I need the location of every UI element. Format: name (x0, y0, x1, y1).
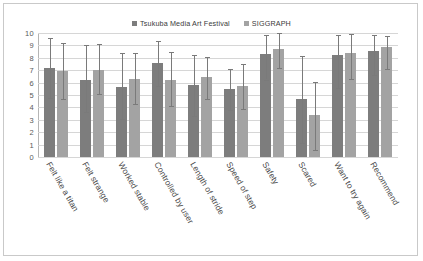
x-axis-category-label: Safety (260, 160, 281, 186)
y-axis-tick-label: 0 (4, 153, 34, 162)
bar-group (110, 33, 146, 157)
error-bar (351, 34, 352, 79)
y-axis-tick-label: 3 (4, 115, 34, 124)
error-bar-cap (61, 43, 66, 44)
bar-group (74, 33, 110, 157)
x-axis-category-label: Scared (296, 160, 318, 189)
error-bar (86, 45, 87, 112)
error-bar (266, 35, 267, 80)
error-bar (338, 35, 339, 88)
error-bar-cap (205, 99, 210, 100)
chart-figure: Tsukuba Media Art Festival SIGGRAPH 1098… (0, 0, 423, 261)
y-axis-tick-label: 6 (4, 78, 34, 87)
error-bar-cap (61, 99, 66, 100)
error-bar-cap (169, 106, 174, 107)
error-bar-cap (349, 79, 354, 80)
error-bar-cap (277, 68, 282, 69)
error-bar (50, 38, 51, 98)
error-bar (279, 33, 280, 68)
error-bar-cap (169, 52, 174, 53)
error-bar-cap (300, 56, 305, 57)
error-bar-cap (228, 110, 233, 111)
error-bar-cap (120, 53, 125, 54)
error-bar (207, 57, 208, 99)
x-axis-category-labels: Felt like a titanFelt strangeWorked stab… (38, 158, 398, 258)
y-axis-tick-label: 8 (4, 53, 34, 62)
error-bar-cap (277, 33, 282, 34)
x-axis-category-label: Speed of step (224, 160, 259, 211)
y-axis-tick-label: 2 (4, 128, 34, 137)
error-bar-cap (48, 98, 53, 99)
error-bar-cap (313, 150, 318, 151)
error-bar (243, 64, 244, 109)
error-bar-cap (84, 45, 89, 46)
x-axis-category-label: Want to try again (332, 160, 373, 221)
y-axis-tick-label: 1 (4, 140, 34, 149)
bar-group (254, 33, 290, 157)
error-bar-cap (241, 64, 246, 65)
error-bar-cap (205, 57, 210, 58)
error-bar-cap (264, 80, 269, 81)
error-bar (99, 44, 100, 94)
bar-group (218, 33, 254, 157)
bar-group (290, 33, 326, 157)
plot-area (38, 33, 398, 157)
error-bar-cap (264, 35, 269, 36)
x-axis-category-label: Worked stable (116, 160, 152, 212)
bar-group (38, 33, 74, 157)
error-bar (122, 53, 123, 119)
bar-group (146, 33, 182, 157)
bar-group (326, 33, 362, 157)
error-bar-cap (228, 69, 233, 70)
error-bar-cap (385, 69, 390, 70)
error-bar-cap (372, 75, 377, 76)
error-bar-cap (192, 55, 197, 56)
y-axis-tick-label: 10 (4, 29, 34, 38)
error-bar (158, 41, 159, 86)
x-axis-category-label: Felt like a titan (44, 160, 81, 213)
error-bar-cap (133, 104, 138, 105)
bar-group (362, 33, 398, 157)
error-bar (63, 43, 64, 99)
y-axis-tick-labels: 109876543210 (2, 33, 34, 157)
error-bar-cap (48, 38, 53, 39)
error-bar (302, 56, 303, 143)
x-axis-category-label: Felt strange (80, 160, 111, 204)
error-bar (387, 36, 388, 69)
error-bar (194, 55, 195, 116)
error-bar (374, 35, 375, 75)
error-bar (135, 53, 136, 104)
error-bar-cap (97, 44, 102, 45)
error-bar-cap (156, 41, 161, 42)
y-axis-tick-label: 4 (4, 103, 34, 112)
x-axis-category-label: Controlled by user (152, 160, 196, 225)
error-bar-cap (192, 116, 197, 117)
error-bar-cap (336, 88, 341, 89)
error-bar-cap (241, 109, 246, 110)
error-bar-cap (120, 119, 125, 120)
error-bar-cap (156, 86, 161, 87)
error-bar-cap (372, 35, 377, 36)
error-bar-cap (133, 53, 138, 54)
error-bar (315, 82, 316, 150)
x-axis-category-label: Length of stride (188, 160, 226, 216)
error-bar-cap (385, 36, 390, 37)
error-bar-cap (349, 34, 354, 35)
y-axis-tick-label: 7 (4, 66, 34, 75)
error-bar-cap (313, 82, 318, 83)
bar-group (182, 33, 218, 157)
error-bar (171, 52, 172, 107)
error-bar-cap (336, 35, 341, 36)
error-bar (230, 69, 231, 110)
error-bar-cap (84, 112, 89, 113)
x-axis-category-label: Recommend (368, 160, 401, 207)
y-axis-tick-label: 9 (4, 41, 34, 50)
y-axis-tick-label: 5 (4, 91, 34, 100)
error-bar-cap (97, 94, 102, 95)
error-bar-cap (300, 143, 305, 144)
